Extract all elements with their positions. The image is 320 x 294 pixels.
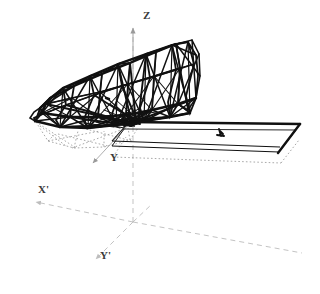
hidden-plate-far-edge (113, 157, 281, 163)
hidden-plate-end (281, 140, 299, 163)
hidden-truss-diagonal-5 (86, 129, 132, 141)
axis-stub-upper-right (133, 204, 152, 222)
flat-plate (112, 122, 300, 153)
axis-label-y-prime: Y' (100, 250, 111, 261)
top-brace-7 (118, 52, 156, 64)
ground-plane-line (133, 222, 302, 253)
axis-label-x-prime: X' (38, 184, 49, 195)
axis-label-z: Z (143, 10, 150, 21)
wireframe-canvas (0, 0, 320, 294)
plate-end-cap-inner (279, 130, 296, 152)
node-marker-1 (106, 98, 109, 99)
vertical-10 (152, 52, 156, 110)
technical-drawing-figure: Z Y X' Y' (0, 0, 320, 294)
truss-node-markers (106, 98, 109, 99)
global-axis-system (36, 30, 302, 259)
plate-near-edge-2 (112, 146, 279, 152)
inner-brace-19 (154, 76, 178, 104)
plate-inner-rail-top (124, 129, 296, 130)
plate-near-edge (112, 141, 280, 147)
plate-marker-icon (217, 129, 224, 136)
hidden-truss-diagonal-6 (40, 126, 66, 146)
plate-top-edge (129, 122, 300, 124)
x-prime-axis-line (36, 202, 133, 222)
axis-label-y: Y (110, 152, 118, 163)
hidden-truss-diagonal-2 (48, 131, 100, 141)
truss-wireframe (30, 40, 200, 128)
